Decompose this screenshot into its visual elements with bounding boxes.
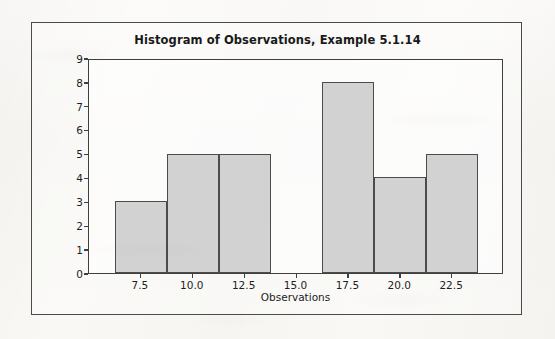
x-axis-tick-label: 12.5 [232, 279, 255, 291]
x-axis-tick-label: 15.0 [284, 279, 307, 291]
x-axis-tick-mark [347, 274, 348, 278]
plot-area [88, 59, 503, 274]
x-axis-title: Observations [88, 291, 503, 303]
x-axis-tick-mark [244, 274, 245, 278]
histogram-bar [167, 154, 219, 273]
x-axis-tick-mark [192, 274, 193, 278]
x-axis-tick-label: 17.5 [336, 279, 359, 291]
histogram-bar [219, 154, 271, 273]
chart-title: Histogram of Observations, Example 5.1.1… [32, 33, 523, 47]
x-axis-tick-mark [140, 274, 141, 278]
x-axis-tick-label: 10.0 [180, 279, 203, 291]
histogram-bar [426, 154, 478, 273]
y-axis-tick-group: 0123456789 [32, 59, 88, 274]
x-axis-tick-mark [399, 274, 400, 278]
histogram-bars-layer [89, 60, 502, 273]
histogram-bar [374, 177, 426, 273]
x-axis-tick-label: 22.5 [439, 279, 462, 291]
x-axis-tick-label: 7.5 [132, 279, 149, 291]
x-axis-tick-label: 20.0 [388, 279, 411, 291]
x-axis-tick-mark [451, 274, 452, 278]
x-axis-tick-mark [296, 274, 297, 278]
scanned-page-background: Histogram of Observations, Example 5.1.1… [0, 0, 555, 339]
histogram-bar [322, 82, 374, 273]
histogram-bar [115, 201, 167, 273]
figure-outer-frame: Histogram of Observations, Example 5.1.1… [31, 22, 522, 315]
